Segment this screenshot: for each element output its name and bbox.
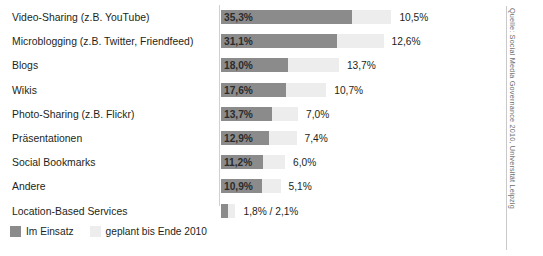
source-note: Quelle: Social Media Governance 2010, Un… [505,8,519,248]
chart-row: Location-Based Services1,8% / 2,1% [0,199,500,223]
bar-segment-geplant [272,107,298,121]
bar-segment-geplant [288,58,339,72]
value-label-im-einsatz: 11,2% [224,157,252,168]
chart-row: Blogs18,0%13,7% [0,53,500,77]
value-label-geplant: 12,6% [392,36,421,47]
bar-segment-geplant [228,204,236,218]
value-label-geplant: 1,8% / 2,1% [244,205,299,216]
value-label-geplant: 5,1% [289,181,312,192]
value-label-im-einsatz: 13,7% [224,108,253,119]
bar-segment-geplant [263,155,285,169]
value-label-geplant: 10,5% [399,12,428,23]
value-label-geplant: 7,4% [305,133,328,144]
bar-segment-geplant [352,10,391,24]
category-label: Blogs [12,60,38,71]
category-label: Social Bookmarks [12,157,95,168]
chart-legend: Im Einsatz geplant bis Ende 2010 [10,226,207,237]
legend-swatch-icon-plan [90,226,101,237]
legend-label-used: Im Einsatz [26,226,74,237]
category-label: Photo-Sharing (z.B. Flickr) [12,108,134,119]
legend-swatch-icon-used [10,226,21,237]
chart-row: Photo-Sharing (z.B. Flickr)13,7%7,0% [0,102,500,126]
value-label-geplant: 6,0% [293,157,316,168]
chart-row: Präsentationen12,9%7,4% [0,126,500,150]
chart-plot-area: Video-Sharing (z.B. YouTube)35,3%10,5%Mi… [0,5,500,223]
value-label-im-einsatz: 17,6% [224,84,253,95]
value-label-geplant: 10,7% [334,84,363,95]
value-label-im-einsatz: 31,1% [224,36,253,47]
bar-segment-geplant [262,179,281,193]
value-label-im-einsatz: 35,3% [224,12,253,23]
chart-row: Microblogging (z.B. Twitter, Friendfeed)… [0,29,500,53]
legend-item-geplant: geplant bis Ende 2010 [90,226,207,237]
value-label-im-einsatz: 18,0% [224,60,253,71]
value-label-geplant: 7,0% [306,108,329,119]
bar-segment-im-einsatz [221,204,228,218]
legend-item-im-einsatz: Im Einsatz [10,226,74,237]
chart-row: Video-Sharing (z.B. YouTube)35,3%10,5% [0,5,500,29]
legend-label-plan: geplant bis Ende 2010 [106,226,207,237]
category-label: Präsentationen [12,133,82,144]
stacked-bar [221,204,235,218]
stacked-bar-chart: Video-Sharing (z.B. YouTube)35,3%10,5%Mi… [0,0,543,256]
value-label-geplant: 13,7% [347,60,376,71]
value-label-im-einsatz: 10,9% [224,181,253,192]
chart-row: Andere10,9%5,1% [0,174,500,198]
category-label: Video-Sharing (z.B. YouTube) [12,12,149,23]
bar-segment-geplant [337,34,384,48]
value-label-im-einsatz: 12,9% [224,133,253,144]
category-label: Wikis [12,84,37,95]
chart-row: Social Bookmarks11,2%6,0% [0,150,500,174]
bar-segment-geplant [286,83,326,97]
chart-row: Wikis17,6%10,7% [0,78,500,102]
bar-segment-geplant [269,131,297,145]
category-label: Microblogging (z.B. Twitter, Friendfeed) [12,36,193,47]
category-label: Andere [12,181,46,192]
category-label: Location-Based Services [12,205,127,216]
